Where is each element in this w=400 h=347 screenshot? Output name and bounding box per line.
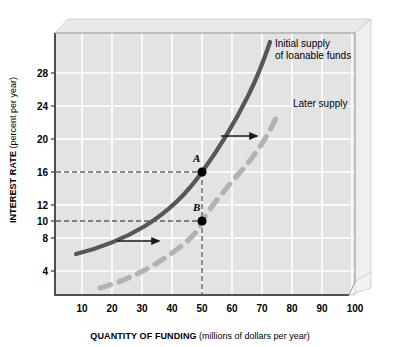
y-tick-8: 8: [22, 233, 48, 244]
point-b-marker: [197, 216, 206, 225]
point-a-label: A: [193, 152, 200, 164]
y-axis-title: INTEREST RATE (percent per year): [0, 0, 22, 300]
x-tick-20: 20: [97, 303, 127, 314]
initial-supply-label-line1: Initial supply: [275, 38, 351, 50]
x-tick-90: 90: [307, 303, 337, 314]
later-supply-label: Later supply: [293, 98, 347, 110]
x-tick-60: 60: [217, 303, 247, 314]
initial-supply-label-line2: of loanable funds: [275, 50, 351, 62]
y-tick-16: 16: [22, 167, 48, 178]
point-a-marker: [197, 167, 206, 176]
x-tick-80: 80: [277, 303, 307, 314]
y-axis-title-sub: (percent per year): [8, 77, 18, 151]
x-tick-70: 70: [247, 303, 277, 314]
x-tick-50: 50: [187, 303, 217, 314]
chart-figure: 28 24 20 16 12 10 8 4 10 20 30 40 50 60 …: [0, 0, 400, 347]
y-tick-4: 4: [22, 266, 48, 277]
x-tick-10: 10: [67, 303, 97, 314]
y-tick-28: 28: [22, 68, 48, 79]
y-axis-ticks: 28 24 20 16 12 10 8 4: [18, 0, 48, 347]
x-tick-40: 40: [157, 303, 187, 314]
later-supply-label-line1: Later supply: [293, 98, 347, 110]
y-tick-10: 10: [22, 216, 48, 227]
y-tick-24: 24: [22, 101, 48, 112]
y-tick-20: 20: [22, 134, 48, 145]
initial-supply-label: Initial supply of loanable funds: [275, 38, 351, 62]
bevel-top-face: [55, 19, 371, 33]
point-b-label: B: [193, 201, 200, 213]
y-tick-12: 12: [22, 200, 48, 211]
x-axis-title-sub: (millions of dollars per year): [197, 331, 310, 341]
x-axis-ticks: 10 20 30 40 50 60 70 80 90 100: [0, 303, 400, 319]
y-axis-title-bold: INTEREST RATE: [8, 151, 18, 223]
bevel-right-face: [355, 19, 371, 282]
x-axis-title: QUANTITY OF FUNDING (millions of dollars…: [0, 325, 400, 343]
x-tick-100: 100: [340, 303, 370, 314]
x-axis-title-bold: QUANTITY OF FUNDING: [90, 331, 196, 341]
x-tick-30: 30: [127, 303, 157, 314]
